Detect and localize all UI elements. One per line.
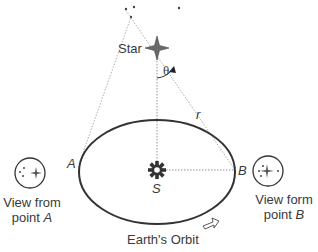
orbit-direction-arrow-icon xyxy=(203,218,219,229)
sun-label: S xyxy=(152,181,161,196)
sightline-b xyxy=(125,9,235,170)
orbit-label: Earth's Orbit xyxy=(127,232,199,247)
star-label: Star xyxy=(118,41,142,56)
sun-icon xyxy=(144,157,169,182)
view-a-caption: View from point A xyxy=(1,195,63,225)
sightline-a xyxy=(79,17,131,164)
point-b-label: B xyxy=(238,163,247,178)
view-a-line1: View from xyxy=(1,195,63,210)
view-b-line2: point B xyxy=(250,207,318,222)
theta-label: θ xyxy=(163,63,169,78)
r-label: r xyxy=(196,107,200,122)
view-b-circle xyxy=(253,156,283,186)
background-stars xyxy=(125,6,180,18)
view-a-line2: point A xyxy=(1,210,63,225)
theta-arrowhead xyxy=(169,66,176,73)
point-a-label: A xyxy=(67,156,76,171)
view-b-line1: View form xyxy=(250,192,318,207)
view-b-caption: View form point B xyxy=(250,192,318,222)
star-icon xyxy=(145,36,169,60)
view-a-circle xyxy=(15,158,45,188)
